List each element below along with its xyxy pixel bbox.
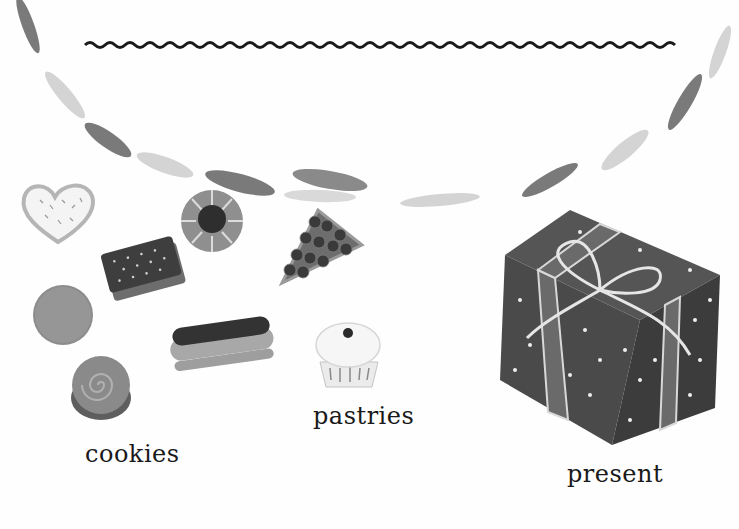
heart-cookie [23, 186, 92, 242]
swirl-cookie [71, 356, 131, 420]
gift-box [500, 210, 720, 445]
label-present: present [567, 460, 663, 488]
berry-tart-slice [282, 210, 362, 283]
label-pastries: pastries [313, 402, 414, 430]
jam-ring-pastry [181, 190, 243, 252]
eclair [167, 315, 276, 372]
label-cookies: cookies [85, 440, 180, 468]
illustration-page: cookies pastries present [0, 0, 739, 529]
round-cookie [33, 285, 93, 345]
paper-garland [12, 0, 735, 209]
sandwich-cookie [100, 235, 186, 302]
wavy-title-line [85, 43, 675, 48]
cupcake [316, 323, 380, 387]
